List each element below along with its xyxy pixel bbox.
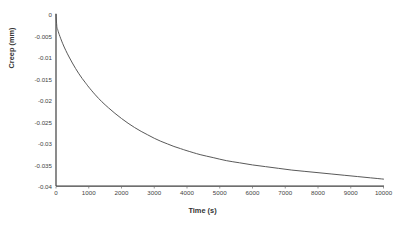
x-tick-label: 2000 bbox=[115, 189, 129, 196]
x-tick-label: 6000 bbox=[246, 189, 260, 196]
x-tick-label: 9000 bbox=[344, 189, 358, 196]
x-axis-title: Time (s) bbox=[0, 206, 405, 215]
x-tick-label: 8000 bbox=[311, 189, 325, 196]
y-tick-label: 0 bbox=[10, 11, 52, 18]
x-tick-label: 3000 bbox=[147, 189, 161, 196]
x-tick-label: 10000 bbox=[375, 189, 392, 196]
x-tick-label: 0 bbox=[54, 189, 57, 196]
y-tick-label: -0.025 bbox=[10, 118, 52, 125]
y-tick-label: -0.01 bbox=[10, 54, 52, 61]
y-tick-label: -0.035 bbox=[10, 161, 52, 168]
y-tick-label: -0.005 bbox=[10, 32, 52, 39]
y-tick-label: -0.015 bbox=[10, 75, 52, 82]
x-tick-label: 5000 bbox=[213, 189, 227, 196]
x-tick-label: 7000 bbox=[278, 189, 292, 196]
creep-data-line bbox=[56, 14, 384, 179]
axes-group bbox=[56, 14, 384, 186]
y-tick-label: -0.04 bbox=[10, 183, 52, 190]
x-tick-label: 4000 bbox=[180, 189, 194, 196]
y-axis-title: Creep (mm) bbox=[7, 8, 16, 88]
y-tick-label: -0.02 bbox=[10, 97, 52, 104]
creep-vs-time-chart: 0-0.005-0.01-0.015-0.02-0.025-0.03-0.035… bbox=[0, 0, 405, 228]
x-tick-label: 1000 bbox=[82, 189, 96, 196]
y-tick-label: -0.03 bbox=[10, 140, 52, 147]
